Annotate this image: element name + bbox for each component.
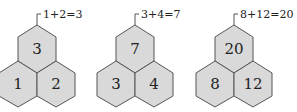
equation-label: 8+12=20 <box>240 8 293 21</box>
hex-left-value: 3 <box>111 75 121 93</box>
equation-label: 3+4=7 <box>141 8 180 21</box>
equation-label: 1+2=3 <box>43 8 82 21</box>
hex-group-2: 3+4=7 7 3 4 <box>97 8 180 108</box>
equation-bracket <box>135 14 139 25</box>
equation-bracket <box>37 14 41 25</box>
hexagon-sum-diagram: 1+2=3 3 1 2 3+4=7 7 3 4 8+12=20 20 8 12 <box>0 0 297 112</box>
equation-bracket <box>234 14 238 25</box>
hex-left-value: 1 <box>13 75 23 93</box>
hex-group-1: 1+2=3 3 1 2 <box>0 8 82 108</box>
hex-right-value: 4 <box>149 75 159 93</box>
hex-left-value: 8 <box>210 75 220 93</box>
hex-top-value: 7 <box>130 40 140 58</box>
hex-group-3: 8+12=20 20 8 12 <box>196 8 293 108</box>
hex-top-value: 3 <box>32 40 42 58</box>
hex-right-value: 2 <box>51 75 61 93</box>
hex-right-value: 12 <box>243 75 262 93</box>
hex-top-value: 20 <box>224 40 243 58</box>
